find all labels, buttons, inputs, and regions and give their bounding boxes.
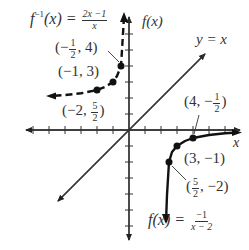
y-axis [125,17,133,240]
label-pre: (4, − [184,93,212,109]
f-equation: f(x) = −1x − 2 [148,210,214,232]
f-inverse-arrow-up [120,12,128,22]
f-inverse-fraction: 2x −1x [82,9,108,31]
label-den: 2 [91,113,98,124]
f-inverse-arg: (x) = [44,10,77,27]
leader-4-neg-half [194,115,199,134]
f-fraction: −1x − 2 [190,210,213,232]
label-post: ) [99,102,104,118]
point-label-5half-neg2: (52, −2) [186,177,228,199]
label-num: 5 [192,177,199,189]
point-label-3-neg1: (3, −1) [184,151,225,166]
f-inverse-equation: f−1(x) = 2x −1x [30,9,108,31]
f-equation-prefix: f(x) = [148,211,185,228]
f-inverse-denominator: x [91,21,97,32]
label-pre: (− [55,39,68,55]
point-label-neg-half-4: (−12, 4) [55,38,97,60]
label-den: 2 [213,104,220,115]
label-fraction: 12 [69,38,76,60]
identity-line-label: y = x [196,32,227,47]
f-inverse-sup: −1 [34,9,44,19]
label-post: ) [221,93,226,109]
point-label-neg1-3: (−1, 3) [58,64,99,79]
f-inverse-numerator: 2x −1 [82,9,108,21]
leader-neg-half-4 [108,51,119,62]
f-numerator: −1 [195,210,208,222]
f-denominator: x − 2 [190,222,213,233]
label-pre: (−2, [62,102,90,118]
label-den: 2 [69,50,76,61]
x-axis-label: x [233,136,239,150]
label-num: 1 [213,92,220,104]
leader-5half-neg2 [172,166,186,180]
label-fraction: 52 [91,101,98,123]
y-axis-label: f(x) [142,14,163,29]
label-den: 2 [192,189,199,200]
label-post: , 4) [77,39,97,55]
label-post: , −2) [200,178,228,194]
x-axis [26,126,240,134]
label-fraction: 52 [192,177,199,199]
label-num: 5 [91,101,98,113]
label-fraction: 12 [213,92,220,114]
label-num: 1 [69,38,76,50]
point-label-neg2-5half: (−2, 52) [62,101,104,123]
point-label-4-neg-half: (4, −12) [184,92,226,114]
label-pre: ( [186,178,191,194]
f-inverse-arrow-left [46,93,56,100]
